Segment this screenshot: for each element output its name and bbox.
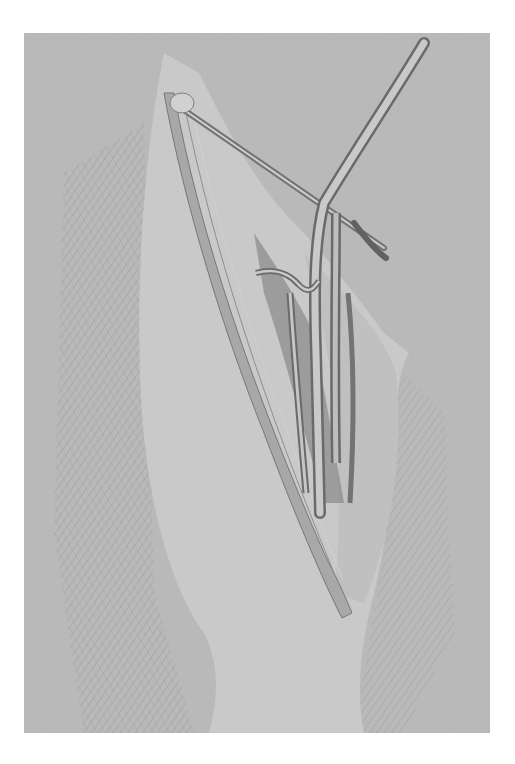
anatomical-drawing [24,33,490,733]
illustration-panel [24,33,490,733]
